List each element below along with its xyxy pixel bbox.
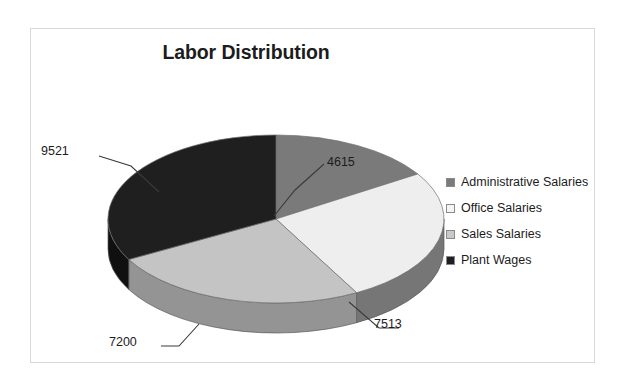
data-label-office: 7513 — [374, 317, 402, 331]
legend-item-label: Sales Salaries — [461, 227, 541, 241]
legend-swatch-icon — [446, 204, 455, 213]
pie-chart-graphic: 4615 7513 7200 9521 — [31, 74, 451, 364]
legend-item-office-salaries[interactable]: Office Salaries — [446, 195, 596, 221]
data-label-sales: 7200 — [109, 335, 137, 349]
data-label-administrative: 4615 — [327, 155, 355, 169]
legend-item-administrative-salaries[interactable]: Administrative Salaries — [446, 169, 596, 195]
legend-item-plant-wages[interactable]: Plant Wages — [446, 247, 596, 273]
legend-item-sales-salaries[interactable]: Sales Salaries — [446, 221, 596, 247]
legend-item-label: Plant Wages — [461, 253, 531, 267]
leader-line-sales — [161, 324, 199, 346]
data-label-plant: 9521 — [41, 144, 69, 158]
chart-legend: Administrative Salaries Office Salaries … — [446, 169, 596, 273]
legend-swatch-icon — [446, 230, 455, 239]
legend-item-label: Administrative Salaries — [461, 175, 588, 189]
pie-top-faces — [108, 135, 444, 303]
legend-swatch-icon — [446, 178, 455, 187]
chart-title: Labor Distribution — [31, 41, 461, 64]
chart-screenshot: Labor Distribution — [0, 0, 625, 388]
legend-swatch-icon — [446, 256, 455, 265]
chart-frame: Labor Distribution — [30, 28, 595, 363]
legend-item-label: Office Salaries — [461, 201, 542, 215]
